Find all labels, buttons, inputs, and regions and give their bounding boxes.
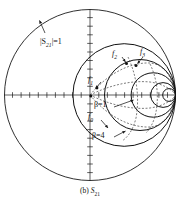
leader-beta4 — [114, 131, 126, 137]
polar-plot-canvas — [0, 0, 180, 203]
label-f0: f0 — [88, 113, 93, 123]
figure-caption: (b) S21 — [0, 186, 180, 197]
label-unit-circle: |S21|=1 — [40, 38, 62, 48]
f3-subscript: 3 — [142, 52, 145, 58]
label-beta-1: β=1 — [94, 101, 107, 109]
figure-s21-polar-plot: |S21|=1 f1 f2 f3 f0 β=1 β=4 (b) S21 — [0, 0, 180, 203]
label-f3: f3 — [140, 48, 145, 58]
unit-circle-value: |=1 — [52, 37, 62, 46]
label-beta-4: β=4 — [92, 132, 105, 140]
frequency-locus-radial-a — [122, 57, 138, 141]
caption-prefix: (b) — [80, 186, 89, 195]
leader-f2 — [122, 57, 126, 62]
f2-subscript: 2 — [114, 54, 117, 60]
frequency-markers — [89, 62, 137, 98]
leader-beta1 — [114, 100, 134, 107]
f0-subscript: 0 — [90, 117, 93, 123]
marker-f3 — [135, 64, 138, 67]
marker-f0 — [89, 95, 92, 98]
label-f2: f2 — [112, 50, 117, 60]
caption-subscript: 21 — [94, 191, 99, 197]
marker-f2 — [125, 62, 128, 65]
frequency-locus-family — [90, 57, 175, 141]
label-f1: f1 — [88, 76, 93, 86]
f1-subscript: 1 — [90, 80, 93, 86]
leader-f0 — [101, 120, 108, 128]
